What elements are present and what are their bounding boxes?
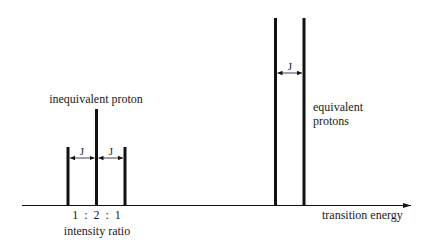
axis-label: transition energy [322, 208, 403, 222]
arrowhead [70, 156, 75, 160]
intensity-ratio-values: 1 : 2 : 1 [72, 208, 121, 222]
inequivalent-proton-label: inequivalent proton [49, 92, 143, 106]
arrowhead [278, 71, 283, 75]
coupling-label-right: J [288, 60, 293, 72]
arrowhead [99, 156, 104, 160]
equivalent-protons-label-2: protons [313, 114, 349, 128]
triplet-peaks [68, 109, 125, 205]
equivalent-protons-label-1: equivalent [313, 100, 364, 114]
nmr-splitting-diagram: J J J inequivalent proton equivalent pro… [0, 0, 429, 247]
coupling-label-left-2: J [109, 145, 114, 157]
intensity-ratio-caption: intensity ratio [64, 224, 130, 238]
equivalent-peaks [276, 18, 305, 205]
coupling-label-left-1: J [80, 145, 85, 157]
